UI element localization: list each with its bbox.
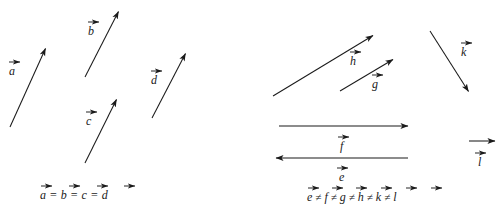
vector-label-a: a — [9, 65, 15, 77]
equation-term-e: e — [307, 191, 312, 203]
equation-term-l: l — [393, 191, 396, 203]
equal-vectors-equation: a = b = c = d — [40, 189, 108, 201]
vector-arrow-c — [85, 100, 117, 164]
vector-label-c: c — [86, 115, 91, 127]
vector-label-l: l — [478, 156, 481, 168]
equation-operator-ne-4: ≠ — [364, 192, 376, 203]
equation-term-d: d — [102, 189, 108, 201]
equation-operator-3: = — [87, 189, 102, 201]
vector-arrow-k — [430, 31, 469, 92]
vector-arrow-d — [152, 54, 186, 119]
equation-term-a: a — [40, 189, 46, 201]
vector-label-e: e — [339, 171, 344, 183]
equation-term-c: c — [82, 189, 87, 201]
vector-label-k: k — [461, 46, 466, 58]
vector-diagram: a b c d h g k f e l a = b = c = d e ≠ f … — [0, 0, 502, 216]
equation-operator-ne-2: ≠ — [328, 192, 340, 203]
equation-operator-ne-5: ≠ — [381, 192, 393, 203]
vector-label-g: g — [372, 78, 378, 90]
equation-operator-ne-1: ≠ — [312, 192, 324, 203]
equation-term-g: g — [340, 191, 346, 203]
vector-label-d: d — [151, 74, 157, 86]
vector-label-f: f — [340, 140, 343, 152]
vector-label-b: b — [88, 25, 94, 37]
vector-arrow-a — [10, 49, 46, 128]
equation-term-b: b — [61, 189, 67, 201]
vector-arrow-g — [340, 60, 393, 92]
equation-term-f: f — [324, 191, 327, 203]
vector-arrows-canvas — [0, 0, 502, 216]
equation-term-k: k — [376, 191, 381, 203]
equation-term-h: h — [358, 191, 364, 203]
vector-label-h: h — [350, 55, 356, 67]
vector-arrow-b — [85, 12, 119, 78]
equation-operator-1: = — [46, 189, 61, 201]
equation-operator-2: = — [67, 189, 82, 201]
vector-arrow-h — [273, 36, 373, 97]
equation-operator-ne-3: ≠ — [346, 192, 358, 203]
unequal-vectors-equation: e ≠ f ≠ g ≠ h ≠ k ≠ l — [307, 191, 397, 203]
